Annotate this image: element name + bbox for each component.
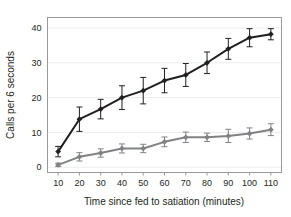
x-tick-label: 30 xyxy=(96,178,106,188)
y-tick-label: 10 xyxy=(31,128,41,138)
x-tick-label: 60 xyxy=(159,178,169,188)
line-chart: 010203040 102030405060708090100110 Calls… xyxy=(0,0,291,217)
x-tick-label: 20 xyxy=(74,178,84,188)
x-tick-label: 70 xyxy=(181,178,191,188)
y-tick-label: 0 xyxy=(36,162,41,172)
x-tick-label: 10 xyxy=(53,178,63,188)
x-tick-label: 110 xyxy=(264,178,278,188)
x-tick-label: 90 xyxy=(223,178,233,188)
x-axis-title: Time since fed to satiation (minutes) xyxy=(84,196,244,207)
y-tick-label: 40 xyxy=(31,23,41,33)
chart-figure: 010203040 102030405060708090100110 Calls… xyxy=(0,0,291,217)
x-tick-label: 40 xyxy=(117,178,127,188)
y-tick-label: 20 xyxy=(31,93,41,103)
x-tick-label: 80 xyxy=(202,178,212,188)
y-axis-title: Calls per 6 seconds xyxy=(5,51,16,139)
x-tick-label: 100 xyxy=(242,178,257,188)
x-tick-label: 50 xyxy=(138,178,148,188)
y-tick-label: 30 xyxy=(31,58,41,68)
